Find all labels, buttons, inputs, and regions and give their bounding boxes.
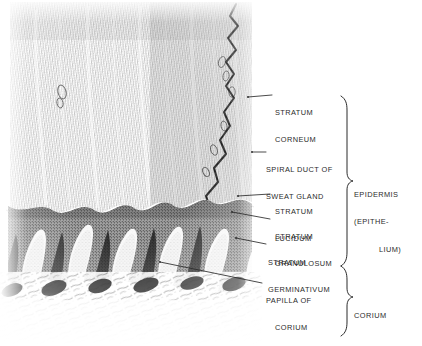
bracket-label-line: (EPITHE- [354,217,401,226]
bracket-label-epidermis: EPIDERMIS (EPITHE- LIUM) [354,171,401,273]
bracket-label-line: CORIUM [354,311,387,320]
skin-cross-section-figure: STRATUM CORNEUM SPIRAL DUCT OF SWEAT GLA… [0,0,422,346]
bracket-label-corium: CORIUM [354,292,387,338]
bracket-epidermis [341,96,353,266]
bracket-corium [341,266,353,336]
bracket-label-line: EPIDERMIS [354,190,401,199]
bracket-label-line: LIUM) [354,245,401,254]
